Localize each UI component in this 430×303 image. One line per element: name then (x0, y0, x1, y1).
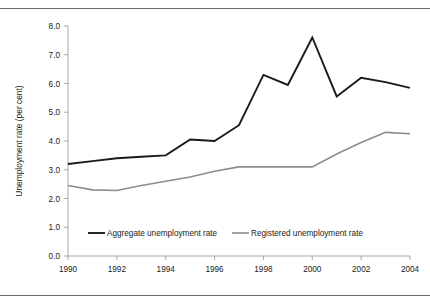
y-tick-label: 0.0 (49, 252, 61, 261)
data-series-group (68, 38, 410, 191)
x-tick-label: 1990 (59, 265, 78, 274)
y-tick-label: 4.0 (49, 137, 61, 146)
y-tick-label: 5.0 (49, 108, 61, 117)
x-tick-label: 2000 (303, 265, 322, 274)
legend-label-1: Aggregate unemployment rate (107, 229, 218, 238)
y-tick-label: 7.0 (49, 51, 61, 60)
bottom-divider-rule (0, 295, 430, 296)
x-tick-label: 1998 (254, 265, 273, 274)
chart-legend: Aggregate unemployment rateRegistered un… (88, 229, 363, 238)
x-tick-label: 1994 (157, 265, 176, 274)
series-line-registered-unemployment-rate (68, 132, 410, 190)
y-axis-ticks (64, 26, 68, 256)
y-tick-label: 2.0 (49, 195, 61, 204)
x-axis-ticks (68, 256, 410, 260)
x-tick-label: 1996 (205, 265, 224, 274)
x-tick-label: 2002 (352, 265, 371, 274)
x-axis-tick-labels: 19901992199419961998200020022004 (59, 265, 420, 274)
y-tick-label: 8.0 (49, 22, 61, 31)
line-chart: 0.01.02.03.04.05.06.07.08.0 199019921994… (0, 0, 430, 303)
legend-label-2: Registered unemployment rate (251, 229, 363, 238)
x-tick-label: 2004 (401, 265, 420, 274)
series-line-aggregate-unemployment-rate (68, 38, 410, 165)
x-tick-label: 1992 (108, 265, 127, 274)
y-tick-label: 6.0 (49, 80, 61, 89)
figure-container: 0.01.02.03.04.05.06.07.08.0 199019921994… (0, 0, 430, 303)
y-tick-label: 1.0 (49, 223, 61, 232)
top-divider-rule (0, 8, 430, 9)
y-axis-title: Unemployment rate (per cent) (14, 85, 24, 196)
y-tick-label: 3.0 (49, 166, 61, 175)
y-axis-tick-labels: 0.01.02.03.04.05.06.07.08.0 (49, 22, 61, 261)
